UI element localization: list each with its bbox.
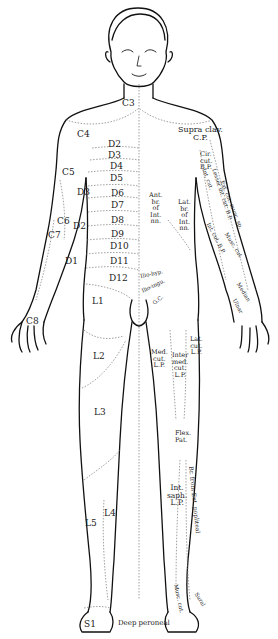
right-foot xyxy=(165,612,198,632)
label-d11: D11 xyxy=(110,257,129,266)
label-d4: D4 xyxy=(110,162,123,171)
label-l2: L2 xyxy=(93,352,105,361)
label-d12: D12 xyxy=(109,274,128,283)
left-inner-arm xyxy=(44,178,86,322)
label-deep-peroneal: Deep peroneal xyxy=(118,620,170,627)
label-d9: D9 xyxy=(111,230,124,239)
hair xyxy=(112,14,165,40)
label-c6: C6 xyxy=(57,217,70,226)
label-ant-br-int: Ant. br. of Int. nn. xyxy=(149,192,163,225)
label-l5: L5 xyxy=(85,519,97,528)
label-d8: D8 xyxy=(111,216,124,225)
label-lat-br-int: Lat. br. of Int. nn. xyxy=(178,199,191,232)
body-outline xyxy=(0,0,278,639)
label-l4: L4 xyxy=(104,509,116,518)
label-l3: L3 xyxy=(94,408,106,417)
label-c8: C8 xyxy=(26,317,39,326)
label-c5: C5 xyxy=(62,168,75,177)
label-d2: D2 xyxy=(108,140,121,149)
label-d1-arm: D1 xyxy=(65,257,78,266)
label-d6: D6 xyxy=(111,189,124,198)
label-d5: D5 xyxy=(110,174,123,183)
left-leg-inner xyxy=(110,322,132,612)
label-c7: C7 xyxy=(48,231,61,240)
label-d10: D10 xyxy=(110,242,129,251)
label-supra-clav: Supra clav. C.P. xyxy=(178,126,223,142)
label-int-saph: Int. saph. L.P. xyxy=(167,484,187,507)
label-s1: S1 xyxy=(84,620,96,629)
label-inter-med-cut: Inter med. cut. L.P. xyxy=(172,352,188,378)
label-c3: C3 xyxy=(122,99,135,108)
dermatome-diagram: C3 C4 C5 C6 C7 C8 D1 D2 D3 D2 D3 D4 D5 D… xyxy=(0,0,278,639)
label-d2-arm: D2 xyxy=(73,222,86,231)
right-hand xyxy=(240,322,269,352)
head-outline xyxy=(109,8,168,87)
label-d3-arm: D3 xyxy=(77,188,90,197)
label-d3: D3 xyxy=(108,151,121,160)
right-flank xyxy=(195,178,199,320)
left-leg-outer xyxy=(79,320,91,612)
left-hand xyxy=(11,322,46,352)
eyes xyxy=(122,50,156,52)
label-l1: L1 xyxy=(92,297,104,306)
label-c4: C4 xyxy=(77,130,90,139)
label-ext-cut: Lat. cut. L.P. xyxy=(190,336,203,356)
mouth xyxy=(132,74,146,76)
label-flex-pat: Flex. Pat. xyxy=(175,430,191,443)
left-torso-outline xyxy=(22,98,124,322)
nose xyxy=(137,56,141,66)
label-d7: D7 xyxy=(111,201,124,210)
label-med-cut: Med. cut. L.P. xyxy=(151,349,168,369)
